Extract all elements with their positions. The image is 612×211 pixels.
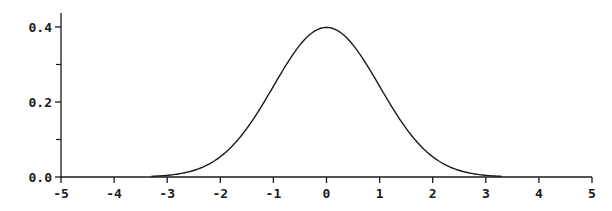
- x-tick-label: -5: [53, 186, 69, 201]
- axes: [61, 13, 592, 178]
- y-ticks: 0.00.20.4: [29, 20, 61, 185]
- x-tick-label: -4: [106, 186, 122, 201]
- x-ticks: -5-4-3-2-1012345: [53, 177, 596, 201]
- density-curve: [151, 27, 501, 176]
- x-tick-label: 4: [535, 186, 543, 201]
- x-tick-label: 2: [429, 186, 437, 201]
- x-tick-label: 3: [482, 186, 490, 201]
- x-tick-label: 5: [588, 186, 596, 201]
- x-tick-label: 1: [376, 186, 384, 201]
- y-tick-label: 0.0: [29, 170, 53, 185]
- x-tick-label: 0: [323, 186, 331, 201]
- y-tick-label: 0.2: [29, 95, 52, 110]
- normal-distribution-chart: -5-4-3-2-1012345 0.00.20.4: [0, 0, 612, 211]
- x-tick-label: -2: [212, 186, 228, 201]
- y-tick-label: 0.4: [29, 20, 53, 35]
- x-tick-label: -3: [159, 186, 175, 201]
- x-tick-label: -1: [266, 186, 282, 201]
